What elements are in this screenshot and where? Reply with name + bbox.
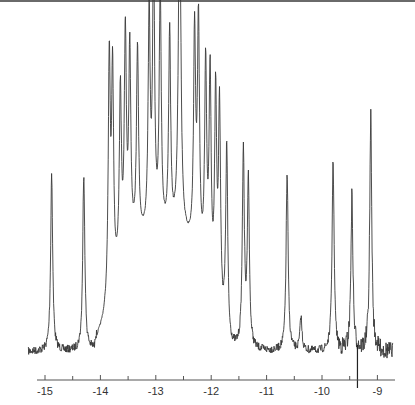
tick-label: -15 — [37, 385, 53, 397]
tick-label: -14 — [92, 385, 108, 397]
tick-label: -11 — [259, 385, 274, 397]
spectrum-trace — [28, 0, 392, 388]
tick-label: -12 — [203, 385, 219, 397]
tick-label: -13 — [148, 385, 164, 397]
tick-label: -10 — [314, 385, 330, 397]
spectrum-line — [28, 0, 392, 358]
spectrum-chart: -15-14-13-12-11-10-9 — [0, 0, 415, 405]
tick-label: -9 — [373, 385, 383, 397]
x-axis-ticks: -15-14-13-12-11-10-9 — [37, 375, 382, 397]
